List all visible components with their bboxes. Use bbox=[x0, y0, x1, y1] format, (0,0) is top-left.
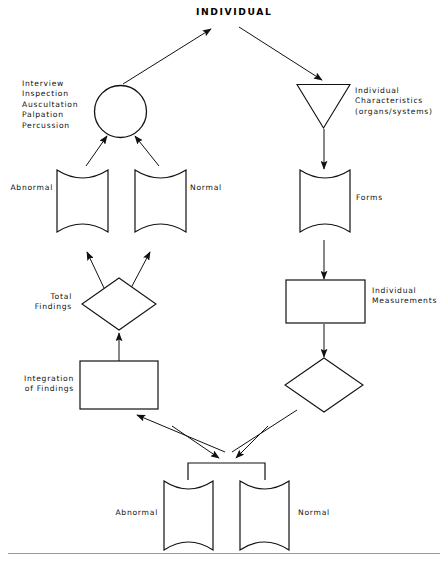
abnormal-lower-doc bbox=[164, 481, 213, 550]
integration-of-findings-label: Integration of Findings bbox=[0, 374, 74, 395]
abnormal-upper-doc bbox=[57, 170, 108, 232]
edge-decision-to-integration bbox=[137, 415, 225, 452]
circle-node bbox=[95, 86, 147, 138]
edge-abnormal-upper-to-circle bbox=[86, 136, 107, 166]
normal-lower-doc bbox=[240, 481, 289, 550]
triangle-node bbox=[297, 85, 350, 129]
abnormal-upper-label: Abnormal bbox=[0, 183, 53, 193]
individual-characteristics-label: Individual Characteristics (organs/syste… bbox=[355, 86, 433, 117]
integration-rect bbox=[80, 361, 158, 409]
edge-integration-branch-to-bottom bbox=[172, 426, 219, 458]
edge-decision-branch-to-bottom bbox=[236, 426, 268, 458]
forms-label: Forms bbox=[356, 193, 383, 203]
edge-normal-upper-to-circle bbox=[135, 136, 159, 166]
individual-measurements-label: Individual Measurements bbox=[372, 286, 437, 307]
edge-circle-to-individual bbox=[123, 29, 211, 84]
edge-decision-to-bottom-junction bbox=[232, 410, 297, 452]
abnormal-lower-label: Abnormal bbox=[100, 508, 158, 518]
decision-diamond bbox=[285, 358, 363, 412]
total-findings-label: Total Findings bbox=[4, 292, 72, 313]
methods-label: Interview Inspection Auscultation Palpat… bbox=[22, 79, 78, 131]
bottom-fork-connector bbox=[188, 463, 265, 480]
individual-measurements-rect bbox=[286, 280, 365, 323]
normal-lower-label: Normal bbox=[298, 508, 330, 518]
edge-total-findings-to-abnormal-upper bbox=[87, 252, 104, 288]
forms-doc bbox=[300, 170, 350, 232]
normal-upper-doc bbox=[135, 170, 186, 232]
total-findings-diamond bbox=[82, 278, 156, 330]
page-title: INDIVIDUAL bbox=[196, 6, 272, 17]
edge-individual-to-triangle bbox=[239, 27, 322, 80]
normal-upper-label: Normal bbox=[190, 183, 222, 193]
edge-total-findings-to-normal-upper bbox=[131, 252, 150, 288]
diagram-page: INDIVIDUAL Interview Inspection Ausculta… bbox=[0, 0, 448, 568]
